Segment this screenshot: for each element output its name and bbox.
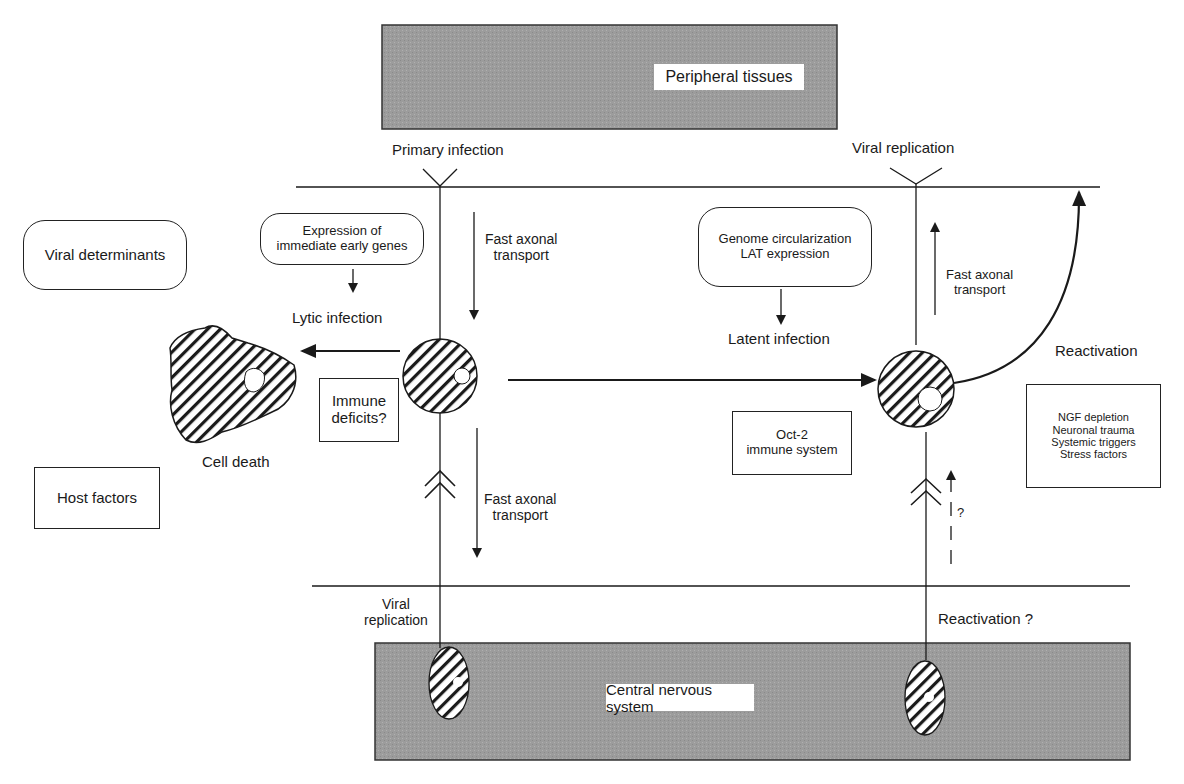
fast-transport-up-label: Fast axonal transport (946, 268, 1013, 297)
fast-transport-label-top-1: Fast axonal (485, 232, 557, 248)
fast-transport-label-top: Fast axonal transport (485, 232, 557, 263)
fast-transport-up-2: transport (946, 283, 1013, 298)
viral-replication-cns-1: Viral (364, 597, 428, 613)
reactivation-label: Reactivation (1055, 343, 1138, 360)
viral-determinants-box: Viral determinants (23, 220, 187, 290)
cns-label: Central nervous system (606, 684, 754, 711)
oct2-text: Oct-2 (776, 428, 808, 443)
genome-circularization-text: Genome circularization (719, 232, 852, 247)
lytic-neuron-nucleus-icon (454, 368, 470, 384)
latent-neuron-icon (878, 351, 954, 427)
cns-neuron-left-icon (429, 647, 469, 719)
trigger-neuronal-trauma: Neuronal trauma (1053, 424, 1135, 436)
ie-genes-text-2: immediate early genes (277, 239, 408, 254)
immune-system-text: immune system (746, 443, 837, 458)
lytic-infection-label: Lytic infection (292, 310, 382, 327)
cell-death-label: Cell death (202, 454, 270, 471)
trigger-systemic: Systemic triggers (1051, 436, 1135, 448)
reactivation-cns-label: Reactivation ? (938, 611, 1033, 628)
viral-determinants-text: Viral determinants (45, 247, 166, 264)
fast-transport-up-1: Fast axonal (946, 268, 1013, 283)
host-factors-box: Host factors (34, 467, 160, 529)
peripheral-tissues-label: Peripheral tissues (654, 64, 804, 90)
fast-transport-label-bottom-2: transport (484, 508, 556, 524)
ie-genes-text-1: Expression of (303, 224, 382, 239)
primary-infection-label: Primary infection (392, 142, 504, 159)
question-mark-label: ? (957, 506, 964, 521)
host-factors-text: Host factors (57, 490, 137, 507)
fast-transport-label-bottom-1: Fast axonal (484, 492, 556, 508)
cns-neuron-right-nucleus-icon (924, 692, 934, 702)
viral-replication-cns-2: replication (364, 613, 428, 629)
genome-to-latent-arrow (775, 287, 787, 327)
trigger-ngf-depletion: NGF depletion (1058, 411, 1129, 423)
oct2-box: Oct-2 immune system (732, 411, 852, 475)
viral-replication-terminal-icon (890, 168, 942, 184)
reactivation-triggers-box: NGF depletion Neuronal trauma Systemic t… (1026, 384, 1161, 488)
immune-deficits-box: Immune deficits? (319, 378, 399, 442)
cns-neuron-left-nucleus-icon (453, 677, 463, 687)
primary-infection-terminal-icon (423, 169, 457, 186)
trigger-stress: Stress factors (1060, 448, 1127, 460)
latent-infection-label: Latent infection (728, 331, 830, 348)
fast-transport-label-top-2: transport (485, 248, 557, 264)
immune-deficits-text-2: deficits? (331, 410, 386, 427)
fast-transport-label-bottom: Fast axonal transport (484, 492, 556, 523)
genome-circularization-box: Genome circularization LAT expression (698, 207, 872, 287)
latent-neuron-nucleus-icon (918, 387, 942, 411)
dead-cell-icon (170, 326, 296, 443)
immune-deficits-text-1: Immune (332, 393, 386, 410)
viral-replication-cns-label: Viral replication (364, 597, 428, 628)
ie-genes-box: Expression of immediate early genes (260, 213, 424, 265)
viral-replication-label: Viral replication (852, 140, 954, 157)
lat-expression-text: LAT expression (740, 247, 829, 262)
